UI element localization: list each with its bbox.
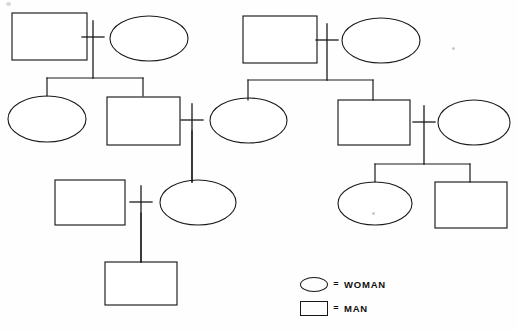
- node-man-R-G2-man: [338, 100, 410, 145]
- node-man-L-G4-man: [105, 262, 177, 305]
- legend-label-man: MAN: [344, 303, 368, 314]
- legend-label-woman: WOMAN: [344, 279, 386, 290]
- equals-icon: =: [328, 280, 344, 289]
- node-woman-L-G3-woman: [160, 180, 236, 225]
- pedigree-chart: = WOMAN = MAN: [0, 0, 518, 332]
- node-man-L-G3-man: [55, 180, 125, 225]
- man-shape-icon: [300, 301, 328, 316]
- legend-row-man: = MAN: [300, 298, 430, 318]
- legend: = WOMAN = MAN: [300, 274, 430, 322]
- node-woman-R-G1-woman: [342, 18, 420, 63]
- union-cross-union-R2: [413, 106, 435, 164]
- scan-artifact-lower-left: [372, 212, 375, 215]
- node-man-L-G2-man: [107, 97, 180, 145]
- node-woman-R-G3-woman: [338, 182, 412, 225]
- pedigree-diagram-canvas: [0, 0, 518, 332]
- node-man-L-G1-man: [12, 13, 87, 60]
- node-woman-L-G2-woman: [8, 96, 86, 142]
- node-man-R-G1-man: [243, 16, 317, 63]
- nodes-layer: [8, 13, 510, 305]
- legend-row-woman: = WOMAN: [300, 274, 430, 294]
- node-woman-R-G2-wife: [438, 100, 510, 145]
- sibling-bar-bar-R2: [375, 164, 470, 182]
- union-cross-union-R1: [316, 24, 338, 80]
- sibling-bar-bar-L1: [47, 78, 143, 96]
- equals-icon: =: [328, 304, 344, 313]
- woman-shape-icon: [300, 277, 328, 292]
- node-man-R-G3-man: [435, 182, 507, 228]
- node-woman-R-G2-woman: [210, 98, 287, 143]
- sibling-bar-bar-R1: [248, 80, 373, 100]
- scan-artifact-right: [452, 47, 455, 50]
- scan-artifact-top-left: [6, 2, 11, 6]
- node-woman-L-G1-woman: [110, 16, 188, 61]
